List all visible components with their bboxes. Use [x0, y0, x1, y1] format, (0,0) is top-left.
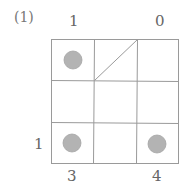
puzzle-grid — [0, 0, 189, 185]
circle-r1c1[interactable] — [64, 51, 82, 69]
circle-r3c1[interactable] — [63, 134, 81, 152]
circle-r3c3[interactable] — [148, 135, 166, 153]
diagonal-line — [95, 40, 138, 81]
